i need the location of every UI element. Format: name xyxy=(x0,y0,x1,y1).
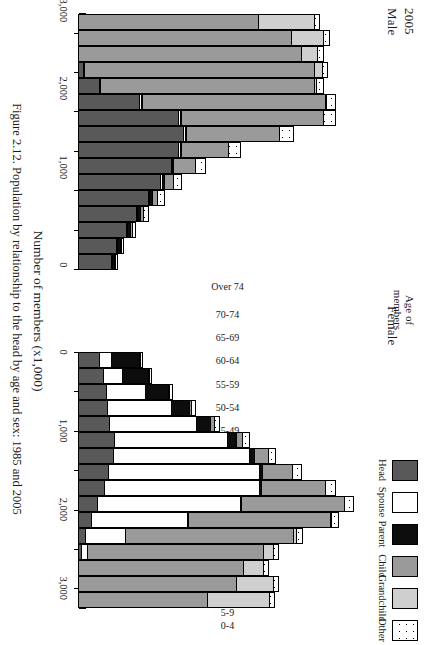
segment-spouse xyxy=(97,497,240,511)
segment-head xyxy=(79,465,108,479)
bar-male-45-49 xyxy=(78,158,378,174)
bar-stack xyxy=(78,544,279,560)
segment-grandchild xyxy=(236,577,273,591)
segment-parent xyxy=(112,255,115,269)
segment-parent xyxy=(141,95,142,109)
segment-head xyxy=(79,239,116,253)
segment-spouse xyxy=(136,207,137,221)
segment-head xyxy=(79,207,136,221)
segment-spouse xyxy=(107,401,171,415)
segment-spouse xyxy=(171,159,172,173)
segment-head xyxy=(79,433,114,447)
axis-tick-label: 1,000 xyxy=(58,419,69,443)
bar-stack xyxy=(78,206,149,222)
segment-child xyxy=(87,545,262,559)
axis-tick xyxy=(74,510,79,511)
bar-female-20-24 xyxy=(78,528,378,544)
bar-stack xyxy=(78,94,336,110)
axis-tick-label: 2,000 xyxy=(58,77,69,101)
bar-stack xyxy=(78,480,336,496)
segment-other xyxy=(326,95,335,109)
segment-grandchild xyxy=(243,561,262,575)
segment-child xyxy=(79,593,207,607)
axis-tick xyxy=(74,470,79,471)
segment-head xyxy=(79,127,183,141)
axis-tick xyxy=(74,33,79,34)
segment-head xyxy=(79,385,106,399)
segment-spouse xyxy=(178,143,180,157)
bar-female-45-49 xyxy=(78,448,378,464)
segment-child xyxy=(168,385,169,399)
segment-child xyxy=(140,207,143,221)
segment-grandchild xyxy=(330,513,331,527)
axis-tick xyxy=(74,230,79,231)
bar-female-0-4 xyxy=(78,592,378,608)
segment-child xyxy=(241,497,344,511)
bar-stack xyxy=(78,78,324,94)
segment-other xyxy=(322,63,327,77)
segment-child xyxy=(142,95,325,109)
segment-other xyxy=(228,143,240,157)
age-label-cell: 0-4 xyxy=(78,619,378,632)
segment-other xyxy=(169,385,172,399)
bar-stack xyxy=(78,14,320,30)
segment-child xyxy=(148,369,149,383)
legend-item-spouse: Spouse xyxy=(377,487,418,517)
segment-child xyxy=(181,111,324,125)
bar-male-30-34 xyxy=(78,110,378,126)
segment-parent xyxy=(249,449,254,463)
legend-swatch-head xyxy=(392,460,418,481)
segment-parent xyxy=(185,127,186,141)
segment-child xyxy=(186,127,279,141)
segment-child xyxy=(262,465,292,479)
segment-grandchild xyxy=(263,545,273,559)
bar-male-35-39 xyxy=(78,126,378,142)
legend: HeadSpouseParentChildGrandchildOther xyxy=(377,455,418,645)
bar-stack xyxy=(78,432,250,448)
segment-child xyxy=(261,481,325,495)
bar-female-70-74 xyxy=(78,368,378,384)
female-plot: 01,0002,0003,000 xyxy=(78,352,378,608)
age-label: 65-69 xyxy=(216,332,239,343)
axis-tick-label: 1,000 xyxy=(58,156,69,180)
segment-head xyxy=(79,481,104,495)
segment-parent xyxy=(240,497,241,511)
male-panel-label: Male xyxy=(384,8,399,36)
segment-head xyxy=(79,63,83,77)
axis-tick-label: 0 xyxy=(58,349,69,354)
age-category-labels: Over 7470-7465-6960-6455-5950-5445-4940-… xyxy=(78,270,378,352)
bar-stack xyxy=(78,30,330,46)
segment-spouse xyxy=(109,417,196,431)
bar-female-30-34 xyxy=(78,496,378,512)
segment-child xyxy=(130,223,132,237)
segment-spouse xyxy=(106,385,145,399)
bar-female-65-69 xyxy=(78,384,378,400)
segment-other xyxy=(331,513,338,527)
segment-child xyxy=(254,449,268,463)
bar-stack xyxy=(78,368,152,384)
segment-grandchild xyxy=(301,47,318,61)
segment-spouse xyxy=(81,545,87,559)
bar-stack xyxy=(78,448,276,464)
segment-other xyxy=(292,465,301,479)
segment-parent xyxy=(187,513,188,527)
legend-swatch-other xyxy=(392,620,418,641)
bar-stack xyxy=(78,142,241,158)
segment-parent xyxy=(137,207,140,221)
legend-swatch-parent xyxy=(392,524,418,545)
bar-female-Over 74 xyxy=(78,352,378,368)
segment-head xyxy=(79,529,85,543)
segment-child xyxy=(100,79,314,93)
segment-spouse xyxy=(148,191,149,205)
male-panel: 01,0002,0003,000 xyxy=(78,14,378,270)
axis-tick-label: 3,000 xyxy=(58,576,69,600)
segment-parent xyxy=(117,239,119,253)
segment-child xyxy=(79,47,301,61)
bar-female-40-44 xyxy=(78,464,378,480)
segment-spouse xyxy=(178,111,180,125)
segment-head xyxy=(79,223,126,237)
axis-tick xyxy=(74,72,79,73)
segment-head xyxy=(79,497,97,511)
